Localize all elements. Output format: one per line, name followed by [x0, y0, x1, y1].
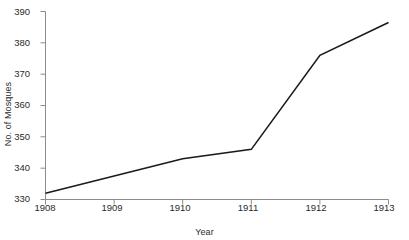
y-axis — [41, 12, 46, 200]
data-series-line — [46, 22, 389, 193]
chart-canvas — [0, 0, 409, 240]
x-axis — [46, 200, 389, 205]
line-chart: No. of Mosques Year 390 380 370 360 350 … — [0, 0, 409, 240]
